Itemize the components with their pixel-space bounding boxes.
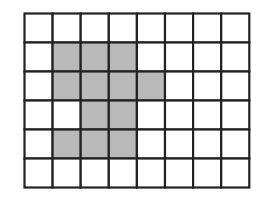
shaded-cell (81, 101, 109, 130)
grid-cell (25, 101, 53, 130)
grid-cell (25, 159, 53, 188)
shaded-cell (53, 72, 81, 101)
grid-cell (25, 14, 53, 43)
shaded-cell (53, 130, 81, 159)
grid-cell (165, 159, 193, 188)
grid-cell (165, 101, 193, 130)
grid-cell (25, 72, 53, 101)
grid-cell (137, 43, 165, 72)
grid-cell (81, 14, 109, 43)
shaded-cell (109, 130, 137, 159)
grid-cell (137, 159, 165, 188)
grid-cell (53, 14, 81, 43)
grid-cell (81, 159, 109, 188)
grid-cell (165, 72, 193, 101)
grid-cell (221, 43, 249, 72)
grid-cell (109, 14, 137, 43)
grid-cell (193, 14, 221, 43)
shaded-cell (53, 43, 81, 72)
grid-cell (25, 130, 53, 159)
grid-cell (193, 72, 221, 101)
grid-cell (137, 14, 165, 43)
shaded-cell (109, 101, 137, 130)
grid-cell (53, 159, 81, 188)
grid-cell (165, 14, 193, 43)
shaded-cell (81, 130, 109, 159)
grid-cell (221, 101, 249, 130)
grid-cell (137, 130, 165, 159)
shaded-cell (109, 72, 137, 101)
grid-cell (109, 159, 137, 188)
grid-cell (221, 159, 249, 188)
grid-cell (221, 14, 249, 43)
grid-cell (193, 101, 221, 130)
grid-cell (165, 43, 193, 72)
shaded-cell (109, 43, 137, 72)
grid-cell (193, 159, 221, 188)
grid-cell (165, 130, 193, 159)
shaded-cell (81, 72, 109, 101)
grid-diagram (23, 12, 251, 189)
shaded-cell (137, 72, 165, 101)
grid-cell (221, 130, 249, 159)
grid-cell (193, 43, 221, 72)
grid-cell (193, 130, 221, 159)
grid-cell (53, 101, 81, 130)
grid-cell (137, 101, 165, 130)
shaded-cell (81, 43, 109, 72)
grid-cell (25, 43, 53, 72)
grid-cell (221, 72, 249, 101)
